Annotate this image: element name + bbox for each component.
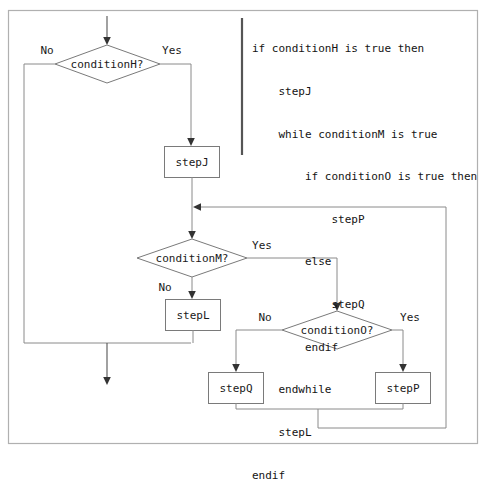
pseudocode-line: stepQ	[252, 298, 477, 312]
pseudocode-line: if conditionH is true then	[252, 42, 477, 56]
pseudocode-line: stepL	[252, 426, 477, 440]
edge-label-conditionH-no: No	[40, 44, 53, 57]
node-conditionH-label: conditionH?	[71, 58, 144, 71]
pseudocode-line: endif	[252, 341, 477, 355]
pseudocode-line: endwhile	[252, 383, 477, 397]
pseudocode-line: stepJ	[252, 85, 477, 99]
pseudocode-line: while conditionM is true	[252, 128, 477, 142]
node-stepQ-label: stepQ	[219, 382, 252, 395]
edge-label-conditionM-no: No	[158, 281, 171, 294]
node-conditionM-label: conditionM?	[156, 252, 229, 265]
node-stepL-label: stepL	[176, 309, 209, 322]
edge-label-conditionH-yes: Yes	[162, 44, 182, 57]
node-stepJ-label: stepJ	[175, 156, 208, 169]
pseudocode-block: if conditionH is true then stepJ while c…	[252, 14, 477, 483]
pseudocode-line: else	[252, 255, 477, 269]
pseudocode-line: endif	[252, 469, 477, 483]
pseudocode-line: if conditionO is true then	[252, 170, 477, 184]
pseudocode-line: stepP	[252, 213, 477, 227]
